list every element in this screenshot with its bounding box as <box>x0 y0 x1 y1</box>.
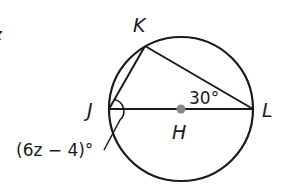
angle-l-label: 30° <box>189 90 219 107</box>
cropped-label-fragment: z <box>0 26 2 44</box>
label-j: J <box>87 101 93 120</box>
label-h: H <box>172 123 186 142</box>
label-k: K <box>133 16 145 35</box>
segment-jk <box>109 46 145 109</box>
angle-j-arc <box>104 100 124 151</box>
center-point-h <box>177 105 186 114</box>
angle-j-label: (6z − 4)° <box>16 142 93 159</box>
label-l: L <box>262 101 273 120</box>
